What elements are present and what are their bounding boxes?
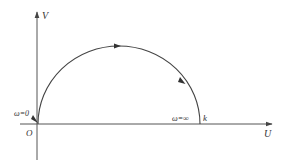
omega-infinity-label: ω=∞ xyxy=(172,114,189,123)
v-axis-label: V xyxy=(42,10,50,21)
origin-label: O xyxy=(26,128,33,138)
frequency-locus-curve xyxy=(38,46,200,124)
nyquist-diagram: V U O ω=0 ω=∞ k xyxy=(0,0,282,164)
direction-arrow-icon xyxy=(114,44,121,49)
k-point-label: k xyxy=(203,113,208,123)
omega-zero-label: ω=0 xyxy=(14,109,29,118)
u-axis-label: U xyxy=(264,128,272,139)
